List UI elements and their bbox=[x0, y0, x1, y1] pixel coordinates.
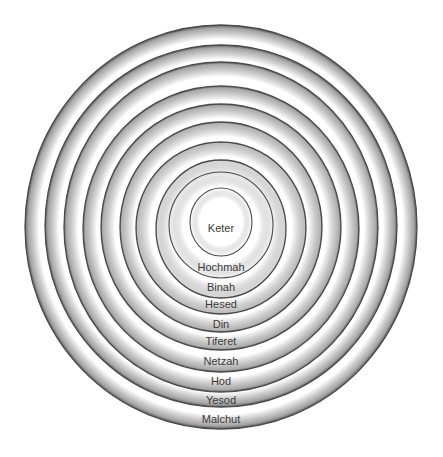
label-tiferet: Tiferet bbox=[206, 335, 237, 347]
label-hesed: Hesed bbox=[205, 298, 237, 310]
label-binah: Binah bbox=[207, 281, 235, 293]
label-netzah: Netzah bbox=[204, 355, 239, 367]
label-yesod: Yesod bbox=[206, 394, 236, 406]
label-hod: Hod bbox=[211, 375, 231, 387]
label-din: Din bbox=[213, 318, 230, 330]
label-malchut: Malchut bbox=[202, 413, 241, 425]
label-keter: Keter bbox=[208, 222, 235, 234]
label-hochmah: Hochmah bbox=[197, 261, 244, 273]
sefirot-concentric-diagram: MalchutYesodHodNetzahTiferetDinHesedBina… bbox=[0, 0, 443, 457]
